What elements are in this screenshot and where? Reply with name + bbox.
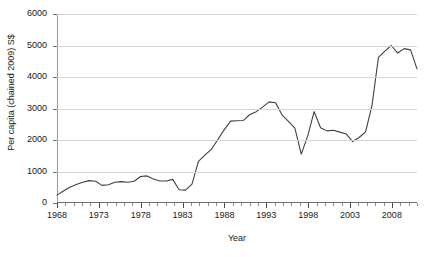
x-tick-minor bbox=[250, 203, 251, 206]
x-tick-minor bbox=[107, 203, 108, 206]
y-tick-mark bbox=[53, 172, 57, 173]
y-tick-label: 0 bbox=[5, 198, 47, 207]
gridline-y bbox=[57, 140, 417, 141]
x-tick-minor bbox=[375, 203, 376, 206]
x-tick-minor bbox=[317, 203, 318, 206]
x-tick-minor bbox=[216, 203, 217, 206]
y-tick-label: 4000 bbox=[5, 72, 47, 81]
x-tick-label: 1988 bbox=[204, 210, 244, 220]
x-tick-minor bbox=[291, 203, 292, 206]
y-tick-label: 5000 bbox=[5, 41, 47, 50]
x-tick-minor bbox=[300, 203, 301, 206]
x-tick-minor bbox=[333, 203, 334, 206]
x-tick-label: 2008 bbox=[372, 210, 412, 220]
x-tick-major bbox=[392, 203, 393, 208]
x-tick-major bbox=[266, 203, 267, 208]
x-tick-major bbox=[57, 203, 58, 208]
x-tick-minor bbox=[166, 203, 167, 206]
y-tick-label: 6000 bbox=[5, 9, 47, 18]
x-tick-minor bbox=[74, 203, 75, 206]
plot-area bbox=[57, 14, 417, 203]
x-tick-minor bbox=[157, 203, 158, 206]
y-tick-mark bbox=[53, 14, 57, 15]
x-axis-title: Year bbox=[57, 233, 417, 243]
y-tick-mark bbox=[53, 140, 57, 141]
x-tick-label: 1993 bbox=[246, 210, 286, 220]
x-tick-label: 2003 bbox=[330, 210, 370, 220]
chart-title bbox=[0, 0, 433, 3]
x-tick-label: 1978 bbox=[121, 210, 161, 220]
gridline-y bbox=[57, 14, 417, 15]
x-tick-minor bbox=[283, 203, 284, 206]
x-tick-minor bbox=[116, 203, 117, 206]
x-tick-minor bbox=[174, 203, 175, 206]
x-tick-label: 1998 bbox=[288, 210, 328, 220]
x-tick-minor bbox=[258, 203, 259, 206]
x-tick-minor bbox=[65, 203, 66, 206]
series-line-per-capita bbox=[57, 46, 417, 196]
y-tick-mark bbox=[53, 46, 57, 47]
x-tick-major bbox=[350, 203, 351, 208]
x-tick-minor bbox=[241, 203, 242, 206]
y-tick-mark bbox=[53, 77, 57, 78]
gridline-y bbox=[57, 77, 417, 78]
x-tick-minor bbox=[400, 203, 401, 206]
x-tick-minor bbox=[358, 203, 359, 206]
x-tick-minor bbox=[342, 203, 343, 206]
y-tick-label: 1000 bbox=[5, 167, 47, 176]
x-tick-label: 1968 bbox=[37, 210, 77, 220]
x-tick-minor bbox=[82, 203, 83, 206]
x-tick-major bbox=[183, 203, 184, 208]
gridline-y bbox=[57, 46, 417, 47]
x-tick-minor bbox=[325, 203, 326, 206]
x-tick-minor bbox=[124, 203, 125, 206]
x-tick-minor bbox=[132, 203, 133, 206]
x-tick-major bbox=[224, 203, 225, 208]
x-tick-label: 1983 bbox=[163, 210, 203, 220]
x-tick-minor bbox=[233, 203, 234, 206]
chart-container: Per capita (chained 2009) S$ Year 010002… bbox=[0, 0, 433, 257]
x-tick-minor bbox=[409, 203, 410, 206]
x-tick-minor bbox=[149, 203, 150, 206]
x-tick-label: 1973 bbox=[79, 210, 119, 220]
x-tick-major bbox=[99, 203, 100, 208]
x-tick-minor bbox=[90, 203, 91, 206]
gridline-y bbox=[57, 172, 417, 173]
y-tick-label: 2000 bbox=[5, 135, 47, 144]
x-tick-minor bbox=[199, 203, 200, 206]
gridline-y bbox=[57, 109, 417, 110]
x-tick-major bbox=[308, 203, 309, 208]
y-tick-mark bbox=[53, 109, 57, 110]
x-tick-minor bbox=[384, 203, 385, 206]
x-tick-minor bbox=[367, 203, 368, 206]
x-tick-minor bbox=[275, 203, 276, 206]
y-tick-label: 3000 bbox=[5, 104, 47, 113]
x-tick-minor bbox=[417, 203, 418, 206]
x-tick-minor bbox=[191, 203, 192, 206]
x-tick-major bbox=[141, 203, 142, 208]
x-tick-minor bbox=[208, 203, 209, 206]
